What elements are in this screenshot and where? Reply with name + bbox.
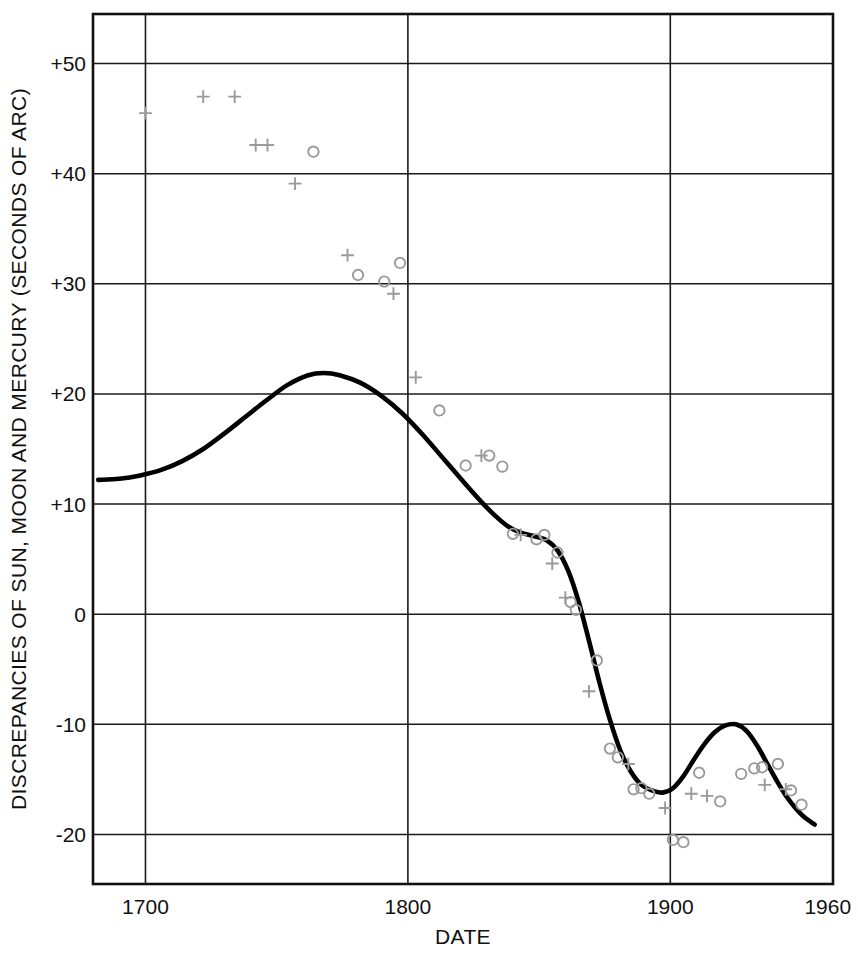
data-point-circle xyxy=(460,460,470,470)
data-point-circle xyxy=(773,759,783,769)
x-tick-label: 1900 xyxy=(647,895,694,918)
data-point-circle xyxy=(668,835,678,845)
trend-curve xyxy=(98,373,814,825)
y-tick-label: +30 xyxy=(50,272,86,295)
data-point-circle xyxy=(678,837,688,847)
data-point-plus xyxy=(139,107,152,120)
data-markers xyxy=(139,90,807,847)
data-point-plus xyxy=(701,790,714,803)
data-point-circle xyxy=(605,743,615,753)
data-point-circle xyxy=(379,276,389,286)
y-tick-label: +20 xyxy=(50,382,86,405)
data-point-plus xyxy=(249,139,262,152)
vertical-gridlines xyxy=(145,14,670,884)
fitted-curve-path xyxy=(98,373,814,825)
y-axis-tick-labels: +50+40+30+20+100-10-20 xyxy=(50,52,86,846)
data-point-plus xyxy=(341,249,354,262)
x-axis-title: DATE xyxy=(435,925,491,948)
data-point-circle xyxy=(434,405,444,415)
data-point-circle xyxy=(308,146,318,156)
data-point-circle xyxy=(497,461,507,471)
y-axis-title: DISCREPANCIES OF SUN, MOON AND MERCURY (… xyxy=(7,88,30,810)
data-point-circle xyxy=(786,785,796,795)
data-point-circle xyxy=(715,796,725,806)
data-point-plus xyxy=(409,371,422,384)
y-tick-label: -10 xyxy=(56,713,86,736)
data-point-circle xyxy=(395,258,405,268)
y-tick-label: +10 xyxy=(50,493,86,516)
data-point-plus xyxy=(583,685,596,698)
data-point-plus xyxy=(289,177,302,190)
data-point-circle xyxy=(353,270,363,280)
series-circle-markers xyxy=(308,146,806,847)
y-tick-label: -20 xyxy=(56,823,86,846)
x-axis-tick-labels: 1700180019001960 xyxy=(122,895,851,918)
data-point-plus xyxy=(387,287,400,300)
chart-figure: +50+40+30+20+100-10-20 1700180019001960 … xyxy=(0,0,858,956)
data-point-circle xyxy=(796,800,806,810)
data-point-plus xyxy=(261,139,274,152)
x-tick-label: 1800 xyxy=(385,895,432,918)
data-point-plus xyxy=(228,90,241,103)
data-point-circle xyxy=(694,768,704,778)
y-tick-label: 0 xyxy=(74,603,86,626)
data-point-plus xyxy=(685,787,698,800)
data-point-plus xyxy=(758,778,771,791)
data-point-circle xyxy=(736,769,746,779)
series-plus-markers xyxy=(139,90,792,814)
chart-svg: +50+40+30+20+100-10-20 1700180019001960 … xyxy=(0,0,858,956)
x-tick-label: 1960 xyxy=(804,895,851,918)
data-point-plus xyxy=(546,557,559,570)
y-tick-label: +40 xyxy=(50,162,86,185)
x-tick-label: 1700 xyxy=(122,895,169,918)
data-point-plus xyxy=(197,90,210,103)
y-tick-label: +50 xyxy=(50,52,86,75)
